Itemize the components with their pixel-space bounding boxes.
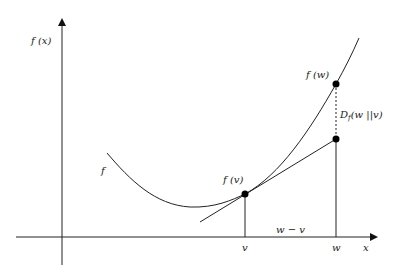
point-fw xyxy=(333,81,340,88)
y-axis-label: f (x) xyxy=(30,35,51,46)
v-tick-label: v xyxy=(242,242,248,253)
bregman-diagram: f (x) f f (v) f (w) Df(w ||v) w − v v w … xyxy=(0,0,399,277)
gap-label: w − v xyxy=(276,224,305,235)
x-axis-label: x xyxy=(363,242,369,253)
point-fv xyxy=(242,191,249,198)
divergence-label: Df(w ||v) xyxy=(339,109,383,122)
divergence-args: (w ||v) xyxy=(351,109,383,121)
w-tick-label: w xyxy=(332,242,341,253)
divergence-main: D xyxy=(339,109,348,120)
curve-label: f xyxy=(100,165,107,176)
point-tangent-w xyxy=(333,136,340,143)
tangent-line xyxy=(200,139,336,222)
fw-label: f (w) xyxy=(305,69,329,80)
fv-label: f (v) xyxy=(222,174,243,185)
